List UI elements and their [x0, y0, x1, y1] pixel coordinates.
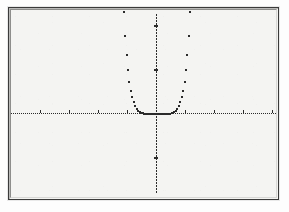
graph-display[interactable]: [11, 10, 276, 197]
plot-background: [11, 10, 276, 197]
screenshot-root: [0, 0, 289, 212]
plot-canvas: [11, 10, 276, 197]
graph-frame: [8, 7, 279, 200]
